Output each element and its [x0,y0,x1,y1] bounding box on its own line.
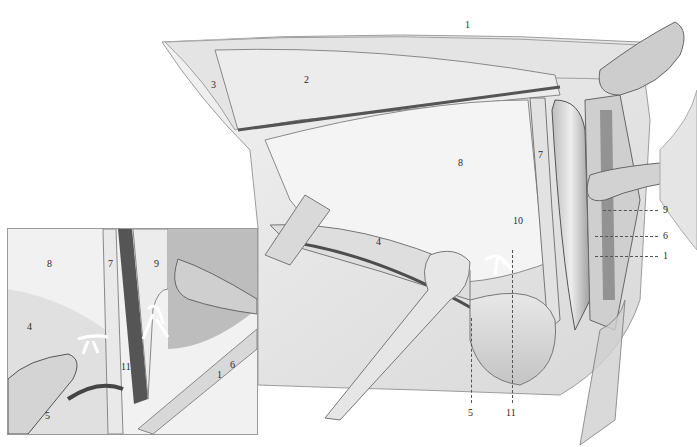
inset-drawing [8,229,257,434]
label-9-right: 9 [663,205,668,215]
label-8: 8 [458,158,463,168]
leader-line-9 [603,210,658,211]
leader-line-11 [512,250,513,403]
label-7: 7 [538,150,543,160]
leader-line-1 [595,256,658,257]
inset-label-9: 9 [154,259,159,269]
label-5-bottom: 5 [468,408,473,418]
leader-line-5 [471,318,472,403]
inset-label-6: 6 [230,360,235,370]
inset-label-7: 7 [108,259,113,269]
leader-line-6 [595,236,658,237]
label-4: 4 [376,237,381,247]
label-11-bottom: 11 [506,408,516,418]
label-1: 1 [465,20,470,30]
inset-label-1: 1 [217,370,222,380]
detail-inset [7,228,258,435]
inset-label-8: 8 [47,259,52,269]
inset-label-5: 5 [45,411,50,421]
label-1-right: 1 [663,251,668,261]
anatomical-illustration: 1 2 3 7 8 10 4 9 6 1 5 11 8 7 9 4 11 6 1… [0,0,697,447]
inset-label-11: 11 [121,362,131,372]
label-2: 2 [304,75,309,85]
label-10: 10 [513,216,523,226]
label-6-right: 6 [663,231,668,241]
inset-label-4: 4 [27,322,32,332]
label-3: 3 [211,80,216,90]
